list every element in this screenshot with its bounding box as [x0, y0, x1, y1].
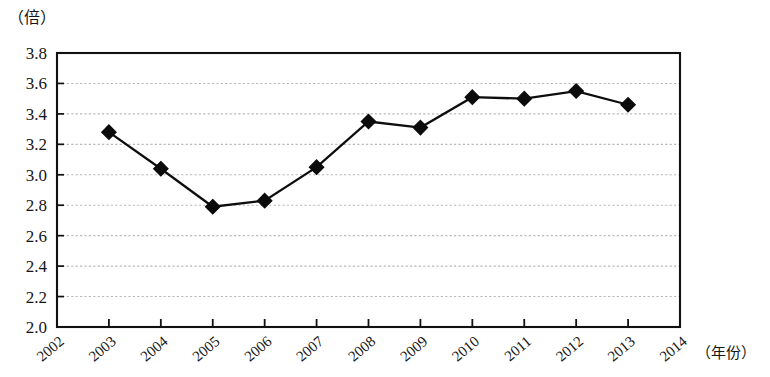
- y-axis-tick-label: 2.0: [26, 318, 47, 337]
- x-axis-tick-label: 2005: [189, 333, 222, 365]
- y-axis-tick-label: 3.8: [26, 44, 47, 63]
- y-axis-tick-label: 2.6: [26, 227, 47, 246]
- line-chart-plot: 3.83.63.43.23.02.82.62.42.22.0 200220032…: [0, 0, 770, 377]
- x-axis-tick-label: 2013: [605, 333, 638, 365]
- data-point-markers-group: [102, 84, 636, 214]
- data-point-marker: [517, 91, 531, 105]
- data-series-line: [109, 91, 628, 207]
- x-axis-tick-label: 2014: [657, 333, 691, 365]
- data-point-marker: [621, 98, 635, 112]
- y-axis-tick-label: 2.8: [26, 196, 47, 215]
- x-axis-tick-label: 2004: [137, 333, 171, 365]
- x-axis-tick-label: 2007: [293, 333, 327, 365]
- chart-figure: （倍） （年份） 3.83.63.43.23.02.82.62.42.22.0 …: [0, 0, 770, 377]
- x-axis-tick-label: 2002: [34, 333, 67, 365]
- y-axis-tick-label: 3.2: [26, 135, 47, 154]
- data-point-marker: [569, 84, 583, 98]
- y-axis-tick-label: 2.4: [26, 257, 48, 276]
- data-point-marker: [465, 90, 479, 104]
- x-axis-tick-labels-group: 2002200320042005200620072008200920102011…: [34, 333, 691, 365]
- y-axis-tick-label: 2.2: [26, 288, 47, 307]
- data-point-marker: [413, 120, 427, 134]
- y-axis-tick-labels-group: 3.83.63.43.23.02.82.62.42.22.0: [26, 44, 48, 337]
- x-axis-tick-label: 2009: [397, 333, 430, 365]
- x-axis-tick-label: 2008: [345, 333, 378, 365]
- x-axis-tick-label: 2010: [449, 333, 482, 365]
- y-axis-tick-label: 3.0: [26, 166, 47, 185]
- x-axis-tick-label: 2003: [86, 333, 119, 365]
- data-point-marker: [102, 125, 116, 139]
- x-axis-tick-label: 2012: [553, 333, 586, 365]
- y-axis-tick-label: 3.4: [26, 105, 48, 124]
- x-axis-ticks-group: [109, 319, 628, 327]
- x-axis-tick-label: 2011: [501, 333, 534, 364]
- y-axis-tick-label: 3.6: [26, 74, 47, 93]
- x-axis-tick-label: 2006: [241, 333, 275, 365]
